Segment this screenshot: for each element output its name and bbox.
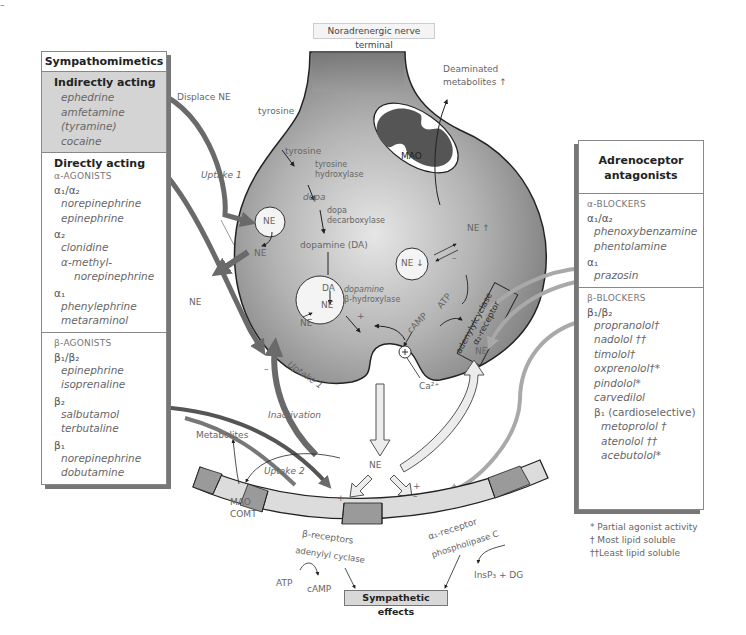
label-minus-alpha1: – — [413, 491, 418, 501]
label-dopa-decarboxylase-2: decarboxylase — [327, 216, 385, 225]
ne-to-alpha1-arrow — [390, 475, 412, 497]
receptor-subtype: α₁/α₂ — [54, 184, 160, 196]
label-calcium: Ca²⁺ — [419, 381, 439, 391]
drug-item: norepinephrine — [54, 451, 160, 466]
drug-item: α-methyl- — [54, 255, 160, 270]
label-tyrosine-hydroxylase-1: tyrosine — [315, 160, 347, 169]
beta-agonists-category: β-AGONISTS — [54, 338, 160, 348]
beta-blockers-category: β-BLOCKERS — [587, 293, 697, 303]
sympathomimetics-header: Sympathomimetics — [42, 52, 166, 72]
drug-item: (tyramine) — [54, 119, 160, 134]
label-ne-vesicle: NE — [263, 216, 275, 226]
legend: * Partial agonist activity † Most lipid … — [590, 521, 698, 560]
legend-most-lipid: † Most lipid soluble — [590, 534, 698, 547]
alpha-agonists-category: α-AGONISTS — [54, 171, 160, 181]
drug-item: isoprenaline — [54, 377, 160, 392]
antagonists-header: Adrenoceptor antagonists — [579, 141, 703, 194]
label-insp3-dg: InsP₃ + DG — [474, 570, 523, 580]
drug-item: dobutamine — [54, 465, 160, 480]
receptor-subtype: α₁ — [54, 287, 160, 299]
drug-item: phenylephrine — [54, 299, 160, 314]
ne-to-beta-arrow — [350, 475, 372, 497]
label-uptake2: Uptake 2 — [264, 466, 305, 476]
direct-title: Directly acting — [54, 157, 160, 170]
label-minus-alpha2: – — [0, 0, 5, 10]
label-plus-release: + — [357, 311, 365, 321]
label-dbh-1: dopamine — [344, 285, 384, 294]
drug-item: timolol† — [587, 347, 697, 362]
drug-item: oxprenolol†* — [587, 361, 697, 376]
label-ne-increase: NE ↑ — [467, 223, 490, 233]
label-displace-ne: Displace NE — [177, 92, 231, 102]
alpha-blockers-section: α-BLOCKERS α₁/α₂ phenoxybenzamine phento… — [579, 194, 703, 288]
antagonists-panel: Adrenoceptor antagonists α-BLOCKERS α₁/α… — [578, 140, 704, 510]
drug-item: pindolol* — [587, 376, 697, 391]
sympathetic-effects-box: Sympathetic effects — [344, 590, 448, 606]
drug-item: epinephrine — [54, 211, 160, 226]
drug-item: norepinephrine — [54, 196, 160, 211]
drug-item: amfetamine — [54, 105, 160, 120]
legend-partial-agonist: * Partial agonist activity — [590, 521, 698, 534]
alpha-blockers-category: α-BLOCKERS — [587, 199, 697, 209]
receptor-subtype: β₁/β₂ — [587, 306, 697, 318]
diagram-title: Noradrenergic nerve terminal — [313, 23, 435, 39]
release-arrow — [370, 384, 390, 456]
receptor-subtype: β₁/β₂ — [54, 351, 160, 363]
label-dopa: dopa — [303, 192, 325, 202]
label-dopa-decarboxylase-1: dopa — [327, 206, 347, 215]
label-inactivation: Inactivation — [268, 410, 321, 420]
drug-item: clonidine — [54, 240, 160, 255]
drug-item: metaraminol — [54, 313, 160, 328]
label-tyrosine-outside: tyrosine — [258, 106, 294, 116]
drug-item: nadolol †† — [587, 332, 697, 347]
drug-item: ephedrine — [54, 90, 160, 105]
label-minus-uptake: – — [264, 364, 269, 374]
label-minus-autoreceptor: – — [452, 253, 457, 263]
receptor-subtype: α₁/α₂ — [587, 212, 697, 224]
label-ne-decrease: NE ↓ — [401, 258, 424, 268]
label-plus-beta: + — [337, 493, 345, 503]
direct-section: Directly acting α-AGONISTS α₁/α₂ norepin… — [42, 153, 166, 333]
drug-item: cocaine — [54, 134, 160, 149]
indirect-section: Indirectly acting ephedrine amfetamine (… — [42, 72, 166, 153]
label-mao: MAO — [401, 151, 422, 161]
label-da: DA — [322, 283, 335, 293]
label-dopamine: dopamine (DA) — [300, 240, 368, 250]
label-atp-bottom: ATP — [276, 578, 292, 588]
label-tyrosine-hydroxylase-2: hydroxylase — [315, 170, 363, 179]
drug-item: prazosin — [587, 268, 697, 283]
label-ne-dbh: NE — [321, 300, 333, 310]
receptor-subtype: β₁ — [54, 439, 160, 451]
label-mao-comt-1: MAO — [230, 497, 251, 507]
drug-item: metoprolol † — [587, 419, 697, 434]
drug-item: salbutamol — [54, 407, 160, 422]
drug-item: phentolamine — [587, 239, 697, 254]
drug-item: carvedilol — [587, 390, 697, 405]
indirect-title: Indirectly acting — [54, 76, 160, 89]
label-uptake1-top: Uptake 1 — [201, 170, 242, 180]
drug-item: acebutolol* — [587, 448, 697, 463]
receptor-subtype: β₂ — [54, 395, 160, 407]
legend-least-lipid: ††Least lipid soluble — [590, 547, 698, 560]
label-dbh-2: β-hydroxylase — [344, 295, 400, 304]
label-plus-alpha1: + — [413, 481, 421, 491]
receptor-subtype: α₂ — [54, 228, 160, 240]
beta-blockers-section: β-BLOCKERS β₁/β₂ propranolol† nadolol ††… — [579, 288, 703, 467]
label-ne-cleft: NE — [369, 460, 381, 470]
label-metabolites-up: metabolites ↑ — [443, 77, 507, 87]
drug-item: terbutaline — [54, 421, 160, 436]
drug-item: phenoxybenzamine — [587, 224, 697, 239]
label-mao-comt-2: COMT — [230, 509, 257, 519]
sympathomimetics-panel: Sympathomimetics Indirectly acting ephed… — [41, 51, 167, 485]
label-metabolites: Metabolites — [196, 430, 248, 440]
antagonists-header-line1: Adrenoceptor — [579, 153, 703, 168]
label-deaminated: Deaminated — [443, 64, 498, 74]
label-ne-release: NE — [300, 318, 312, 328]
receptor-subtype: α₁ — [587, 256, 697, 268]
label-ne-left: NE — [189, 297, 201, 307]
drug-item: epinephrine — [54, 363, 160, 378]
drug-item: propranolol† — [587, 318, 697, 333]
antagonists-header-line2: antagonists — [579, 168, 703, 183]
label-camp-bottom: cAMP — [307, 584, 331, 594]
beta-agonists-section: β-AGONISTS β₁/β₂ epinephrine isoprenalin… — [42, 333, 166, 484]
